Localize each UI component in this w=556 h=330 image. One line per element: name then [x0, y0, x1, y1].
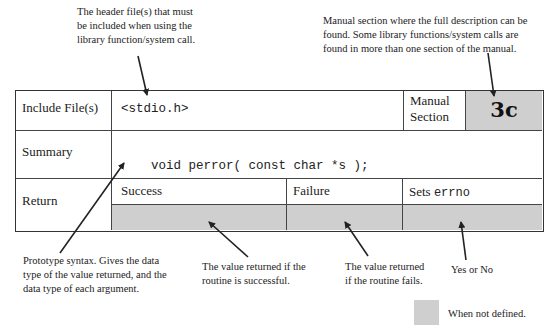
annotation-line: found. Some library functions/system cal…: [323, 28, 527, 42]
manual-section-value-cell: 3c: [466, 91, 542, 131]
include-files-label: Include File(s): [22, 100, 98, 115]
annotation-line: library function/system call.: [77, 33, 195, 47]
manual-section-label-line1: Manual: [410, 93, 465, 109]
annotation-line: routine is successful.: [202, 274, 306, 288]
annotation-prototype: Prototype syntax. Gives the data type of…: [23, 254, 167, 296]
annotation-line: Manual section where the full descriptio…: [323, 14, 527, 28]
annotation-line: Prototype syntax. Gives the data: [23, 254, 167, 268]
include-files-label-cell: Include File(s): [16, 91, 112, 131]
annotation-line: The header file(s) that must: [77, 5, 195, 19]
annotation-line: found in more than one section of the ma…: [323, 42, 527, 56]
success-header-cell: Success: [112, 179, 287, 205]
legend-label: When not defined.: [448, 307, 526, 321]
prototype-syntax: void perror( const char *s );: [151, 159, 369, 173]
annotation-failure: The value returned if the routine fails.: [345, 260, 424, 288]
sets-errno-header-cell: Sets errno: [403, 179, 542, 205]
annotation-header-files: The header file(s) that must be included…: [77, 5, 195, 47]
manual-section-label-cell: Manual Section: [404, 91, 466, 131]
include-files-value-cell: <stdio.h>: [112, 91, 404, 131]
annotation-sets-errno: Yes or No: [451, 263, 493, 277]
annotation-line: data type of each argument.: [23, 282, 167, 296]
annotation-line: type of the value returned, and the: [23, 268, 167, 282]
annotation-line: if the routine fails.: [345, 274, 424, 288]
legend-swatch: [414, 300, 439, 325]
success-value-cell: [112, 205, 287, 230]
manual-section-label-line2: Section: [410, 109, 465, 125]
sets-errno-value-cell: [403, 205, 542, 230]
success-header: Success: [121, 183, 162, 198]
summary-value-cell: void perror( const char *s );: [112, 131, 542, 179]
failure-value-cell: [287, 205, 403, 230]
annotation-success: The value returned if the routine is suc…: [202, 260, 306, 288]
annotation-line: be included when using the: [77, 19, 195, 33]
failure-header: Failure: [293, 183, 330, 198]
annotation-line: The value returned: [345, 260, 424, 274]
annotation-line: Yes or No: [451, 263, 493, 277]
return-label: Return: [22, 193, 57, 208]
annotation-manual-section: Manual section where the full descriptio…: [323, 14, 527, 56]
manual-section-value: 3c: [490, 97, 517, 122]
summary-label-cell: Summary: [16, 131, 112, 179]
man-page-summary-table: Include File(s) <stdio.h> Manual Section…: [15, 90, 544, 232]
summary-label: Summary: [22, 144, 73, 159]
sets-errno-prefix: Sets: [409, 184, 434, 199]
sets-errno-code: errno: [434, 186, 470, 200]
return-label-cell: Return: [16, 179, 112, 230]
include-files-value: <stdio.h>: [121, 102, 189, 116]
annotation-line: The value returned if the: [202, 260, 306, 274]
failure-header-cell: Failure: [287, 179, 403, 205]
